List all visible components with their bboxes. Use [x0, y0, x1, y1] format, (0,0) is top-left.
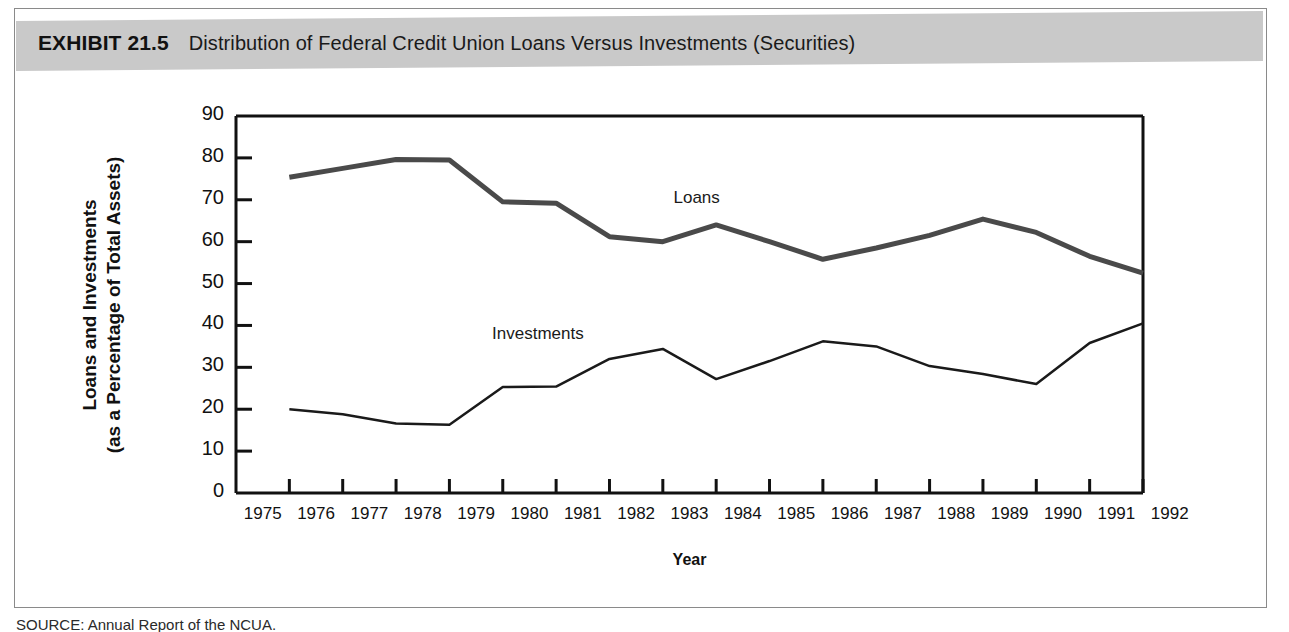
x-axis-tick-label: 1992 [1140, 504, 1200, 524]
x-axis-tick-label: 1975 [233, 504, 293, 524]
y-axis-tick-label: 10 [178, 437, 224, 460]
y-axis-tick-label: 30 [178, 353, 224, 376]
y-axis-tick-label: 70 [178, 186, 224, 209]
x-axis-tick-label: 1978 [393, 504, 453, 524]
y-axis-tick-label: 20 [178, 395, 224, 418]
x-axis-tick-label: 1989 [980, 504, 1040, 524]
x-axis-tick-label: 1984 [713, 504, 773, 524]
x-axis-tick-label: 1977 [339, 504, 399, 524]
x-axis-tick-label: 1985 [766, 504, 826, 524]
series-label-loans: Loans [673, 188, 719, 208]
source-note: SOURCE: Annual Report of the NCUA. [16, 616, 276, 632]
x-axis-tick-label: 1983 [660, 504, 720, 524]
x-axis-tick-label: 1980 [499, 504, 559, 524]
x-axis-tick-label: 1990 [1033, 504, 1093, 524]
x-axis-tick-label: 1979 [446, 504, 506, 524]
x-axis-tick-label: 1991 [1086, 504, 1146, 524]
y-axis-tick-label: 90 [178, 102, 224, 125]
series-line-investments [289, 323, 1143, 424]
x-axis-tick-label: 1976 [286, 504, 346, 524]
series-label-investments: Investments [492, 324, 584, 344]
y-axis-tick-label: 50 [178, 270, 224, 293]
y-axis-tick-label: 40 [178, 311, 224, 334]
x-axis-tick-label: 1986 [820, 504, 880, 524]
series-line-loans [289, 160, 1143, 274]
exhibit-figure: EXHIBIT 21.5 Distribution of Federal Cre… [0, 0, 1289, 632]
x-axis-tick-label: 1987 [873, 504, 933, 524]
y-axis-tick-label: 60 [178, 228, 224, 251]
y-axis-tick-label: 80 [178, 144, 224, 167]
x-axis-tick-label: 1982 [606, 504, 666, 524]
y-axis-tick-label: 0 [178, 479, 224, 502]
x-axis-tick-label: 1981 [553, 504, 613, 524]
x-axis-tick-label: 1988 [926, 504, 986, 524]
